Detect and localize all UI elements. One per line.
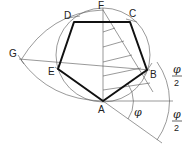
label-c: C [129,8,136,19]
label-f: F [98,0,104,11]
label-half-phi-bottom-num: φ [173,108,181,121]
label-half-phi-bottom-den: 2 [174,123,179,133]
pentagon [58,22,147,101]
arc-lower-g [21,60,103,101]
hatch-4 [103,68,141,76]
line-gb [19,59,150,70]
arc-upper-g [21,10,103,60]
label-g: G [9,48,17,59]
hatch-2 [103,41,124,47]
label-half-phi-top-num: φ [173,63,181,76]
label-phi: φ [134,106,142,119]
label-half-phi-top-den: 2 [174,78,179,88]
label-d: D [64,10,71,21]
label-a: A [98,104,105,115]
lower-ref-line [103,101,162,143]
phi-arc [128,84,133,119]
label-e: E [48,66,55,77]
pentagon-construction-diagram: F C D G E B A φ φ 2 φ 2 [0,0,189,155]
hatch-3 [103,55,132,62]
label-b: B [150,69,157,80]
hatch-1 [103,28,115,32]
